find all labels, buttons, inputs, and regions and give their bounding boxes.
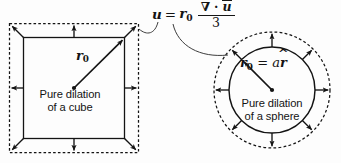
equation-denominator: 3	[212, 16, 220, 30]
sphere-center-dot	[270, 88, 274, 92]
cube-radius-label: r0	[76, 48, 89, 65]
cube-caption: Pure dilation of a cube	[14, 88, 126, 114]
equation-factor-sub: 0	[186, 12, 192, 23]
dilation-figure: u = r0 ∇ · u 3 r0 Pure dilation of a cub…	[0, 0, 341, 163]
r-hat-icon: r	[280, 54, 287, 71]
equation-fraction: ∇ · u 3	[198, 1, 235, 29]
equation-factor-group: r0	[179, 6, 193, 23]
sphere-panel	[214, 32, 330, 148]
sphere-radius-letter: r	[240, 55, 247, 70]
sphere-radius-equals: =	[253, 55, 272, 70]
cube-radius-letter: r	[76, 48, 83, 63]
equation-numerator: ∇ · u	[198, 1, 235, 16]
sphere-radius-label: r0 = ar	[240, 54, 287, 72]
cube-arrow-corner-bottom-right	[125, 139, 136, 150]
sphere-arrow-ne	[302, 50, 311, 59]
sphere-caption-line1: Pure dilation	[216, 97, 328, 110]
cube-radius-subscript: 0	[83, 54, 89, 64]
cube-caption-line2: of a cube	[14, 101, 126, 114]
equation-equals: =	[165, 7, 176, 23]
cube-arrow-corner-bottom-left	[12, 139, 23, 150]
sphere-caption: Pure dilation of a sphere	[216, 97, 328, 123]
equation-dot: ·	[214, 0, 218, 14]
equation-numerator-u: u	[222, 1, 231, 14]
cube-caption-line1: Pure dilation	[14, 88, 126, 101]
cube-arrow-corner-top-right	[125, 26, 136, 37]
equation-lhs: u	[152, 7, 162, 23]
sphere-caption-line2: of a sphere	[216, 110, 328, 123]
cube-arrow-corner-top-left	[12, 26, 23, 37]
dilation-equation: u = r0 ∇ · u 3	[152, 1, 235, 29]
nabla-icon: ∇	[201, 0, 210, 14]
